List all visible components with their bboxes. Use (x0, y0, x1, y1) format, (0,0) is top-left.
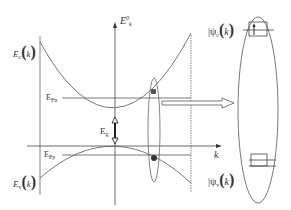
hole-dot (151, 155, 157, 161)
momentum-axis-arrowhead (216, 144, 222, 148)
state-ellipse (238, 17, 278, 203)
band-gap-label: Eg (100, 127, 109, 137)
fermi-level-n-label: EFn (46, 94, 57, 103)
energy-axis-arrowhead (113, 22, 117, 28)
electron-dot (151, 89, 156, 94)
band-gap-arrowhead-down (112, 138, 118, 144)
valence-band-label: Ev(k) (13, 174, 36, 190)
conduction-band-curve (40, 33, 191, 108)
energy-axis-label: E0k (120, 15, 132, 27)
fermi-level-p-label: EFp (44, 151, 55, 160)
band-diagram (0, 0, 291, 210)
spin-up-arrowhead (253, 23, 256, 27)
lower-state-label: |ψv(k) (208, 172, 234, 188)
conduction-band-label: Ec(k) (13, 44, 36, 60)
momentum-axis-label: k (214, 150, 218, 160)
band-gap-arrowhead-up (112, 117, 118, 123)
upper-state-label: |ψc(k) (208, 22, 234, 38)
upper-state-box (249, 22, 267, 36)
transition-arrow (162, 98, 234, 108)
valence-band-curve (40, 146, 191, 183)
